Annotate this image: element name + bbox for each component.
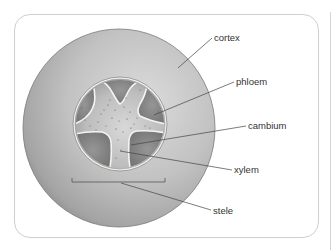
label-cambium: cambium <box>248 121 287 131</box>
leader-line-cortex <box>178 38 212 68</box>
label-xylem: xylem <box>234 165 259 175</box>
label-stele: stele <box>213 206 233 216</box>
label-cortex: cortex <box>214 33 240 43</box>
label-phloem: phloem <box>236 77 267 87</box>
